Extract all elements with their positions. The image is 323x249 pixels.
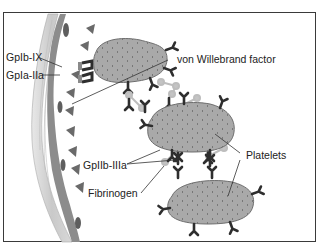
label-gpia-iia: GpIa-IIa (6, 70, 44, 81)
label-vwf: von Willebrand factor (177, 54, 276, 65)
label-platelets: Platelets (246, 150, 286, 161)
label-gpib-ix: GpIb-IX (6, 52, 42, 63)
label-gpiib-iiia: GpIIb-IIIa (83, 160, 127, 171)
platelet-bottom (158, 167, 263, 235)
platelet-adhesion-illustration (0, 0, 323, 249)
label-fibrinogen: Fibrinogen (88, 188, 138, 199)
